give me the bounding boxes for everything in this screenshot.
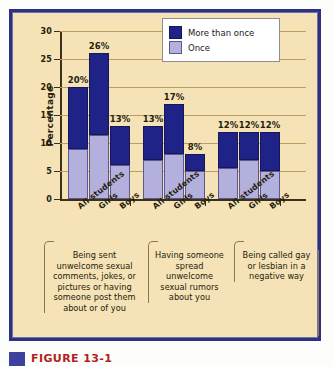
bar-segment-more-than-once bbox=[218, 132, 238, 168]
caption-group: Being sent unwelcome sexual comments, jo… bbox=[44, 250, 140, 313]
y-axis-tick-label: 25 bbox=[40, 55, 52, 64]
y-axis-tick-label: 0 bbox=[46, 195, 52, 204]
bar-segment-more-than-once bbox=[89, 53, 109, 134]
figure-marker-icon bbox=[9, 352, 25, 366]
bar-value-label: 17% bbox=[164, 92, 184, 102]
legend-label-once: Once bbox=[188, 43, 210, 53]
caption-bracket-icon bbox=[148, 241, 158, 251]
y-axis-tick-label: 30 bbox=[40, 27, 52, 36]
bar-segment-more-than-once bbox=[143, 126, 163, 160]
legend-label-more-than-once: More than once bbox=[188, 28, 254, 38]
y-axis-tick bbox=[54, 115, 60, 116]
legend-item-more-than-once: More than once bbox=[169, 26, 273, 39]
bar-value-label: 26% bbox=[89, 41, 109, 51]
bar-segment-more-than-once bbox=[164, 104, 184, 154]
caption-text: Having someone spread unwelcome sexual r… bbox=[155, 250, 224, 302]
bar bbox=[218, 132, 238, 199]
bar bbox=[260, 132, 280, 199]
bar-segment-more-than-once bbox=[68, 87, 88, 149]
bar bbox=[110, 126, 130, 199]
y-axis-tick-label: 10 bbox=[40, 139, 52, 148]
chart-legend: More than once Once bbox=[162, 18, 280, 62]
y-axis-tick bbox=[54, 171, 60, 172]
chart-panel: Percentage 051015202530 20%26%13%13%17%8… bbox=[9, 9, 321, 341]
legend-swatch-more-than-once-icon bbox=[169, 26, 182, 39]
figure-container: Percentage 051015202530 20%26%13%13%17%8… bbox=[0, 0, 334, 366]
bar-value-label: 12% bbox=[239, 120, 259, 130]
y-axis-tick bbox=[54, 31, 60, 32]
bar bbox=[89, 53, 109, 199]
figure-number: FIGURE 13-1 bbox=[31, 352, 112, 365]
bar-value-label: 12% bbox=[218, 120, 238, 130]
y-axis-tick-label: 20 bbox=[40, 83, 52, 92]
caption-bracket-icon bbox=[44, 241, 54, 251]
bar bbox=[68, 87, 88, 199]
figure-caption-strip: FIGURE 13-1 bbox=[9, 352, 112, 366]
y-axis-tick bbox=[54, 143, 60, 144]
legend-swatch-once-icon bbox=[169, 41, 182, 54]
caption-group: Being called gay or lesbian in a negativ… bbox=[234, 250, 314, 282]
legend-item-once: Once bbox=[169, 41, 273, 54]
bar-value-label: 13% bbox=[110, 114, 130, 124]
caption-group: Having someone spread unwelcome sexual r… bbox=[148, 250, 226, 303]
bar-segment-more-than-once bbox=[110, 126, 130, 165]
bar bbox=[143, 126, 163, 199]
y-axis-tick-label: 15 bbox=[40, 111, 52, 120]
bar-segment-once bbox=[218, 168, 238, 199]
y-axis-tick bbox=[54, 87, 60, 88]
bar-value-label: 13% bbox=[143, 114, 163, 124]
bar-segment-once bbox=[68, 149, 88, 199]
caption-groups: Being sent unwelcome sexual comments, jo… bbox=[26, 250, 310, 336]
bar-value-label: 12% bbox=[260, 120, 280, 130]
caption-bracket-icon bbox=[234, 241, 244, 251]
caption-text: Being sent unwelcome sexual comments, jo… bbox=[53, 250, 136, 313]
bar-segment-once bbox=[143, 160, 163, 199]
bar-value-label: 8% bbox=[188, 142, 202, 152]
y-axis-tick bbox=[54, 199, 60, 200]
x-axis-category-labels: All studentsGirlsBoysAll studentsGirlsBo… bbox=[62, 204, 308, 244]
y-axis-tick-label: 5 bbox=[46, 167, 52, 176]
bar-segment-more-than-once bbox=[260, 132, 280, 171]
caption-bracket-trailing bbox=[318, 250, 319, 336]
y-axis-tick bbox=[54, 59, 60, 60]
bar-segment-more-than-once bbox=[239, 132, 259, 160]
caption-text: Being called gay or lesbian in a negativ… bbox=[243, 250, 311, 281]
bar-value-label: 20% bbox=[68, 75, 88, 85]
